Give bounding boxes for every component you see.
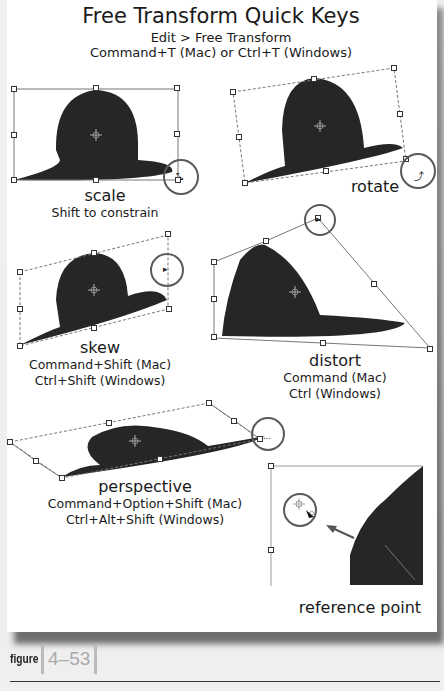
distort-illustration xyxy=(212,205,433,352)
perspective-illustration xyxy=(8,401,285,481)
reference-point-cursor-icon: ◇ xyxy=(309,509,314,517)
figure-label: figure xyxy=(10,652,38,666)
scale-name: scale xyxy=(20,186,190,205)
scale-label: scale Shift to constrain xyxy=(20,186,190,221)
scale-illustration xyxy=(12,86,199,195)
skew-keys-mac: Command+Shift (Mac) xyxy=(15,357,185,373)
divider xyxy=(10,681,440,682)
skew-cursor-icon: ▸ xyxy=(163,264,168,274)
distort-keys-mac: Command (Mac) xyxy=(250,370,420,386)
figure-number: 4–53 xyxy=(41,644,97,674)
rotate-label: rotate xyxy=(340,177,410,196)
rotate-illustration xyxy=(231,66,436,189)
perspective-label: perspective Command+Option+Shift (Mac) C… xyxy=(40,477,250,528)
reference-point-label: reference point xyxy=(285,598,435,617)
perspective-cursor-icon: … xyxy=(263,432,271,441)
skew-name: skew xyxy=(15,338,185,357)
reference-point-name: reference point xyxy=(285,598,435,617)
perspective-keys-windows: Ctrl+Alt+Shift (Windows) xyxy=(40,512,250,528)
skew-illustration xyxy=(18,232,184,349)
reference-point-illustration xyxy=(269,464,424,587)
skew-keys-windows: Ctrl+Shift (Windows) xyxy=(15,373,185,389)
transform-illustrations xyxy=(0,0,442,640)
skew-label: skew Command+Shift (Mac) Ctrl+Shift (Win… xyxy=(15,338,185,389)
scale-cursor-icon: ⤡ xyxy=(176,172,183,183)
rotate-name: rotate xyxy=(340,177,410,196)
distort-label: distort Command (Mac) Ctrl (Windows) xyxy=(250,351,420,402)
scale-keys: Shift to constrain xyxy=(20,205,190,221)
distort-name: distort xyxy=(250,351,420,370)
perspective-name: perspective xyxy=(40,477,250,496)
rotate-cursor-icon: ⤴ xyxy=(414,168,424,183)
perspective-keys-mac: Command+Option+Shift (Mac) xyxy=(40,496,250,512)
distort-keys-windows: Ctrl (Windows) xyxy=(250,386,420,402)
distort-cursor-icon: ▸ xyxy=(316,214,321,224)
